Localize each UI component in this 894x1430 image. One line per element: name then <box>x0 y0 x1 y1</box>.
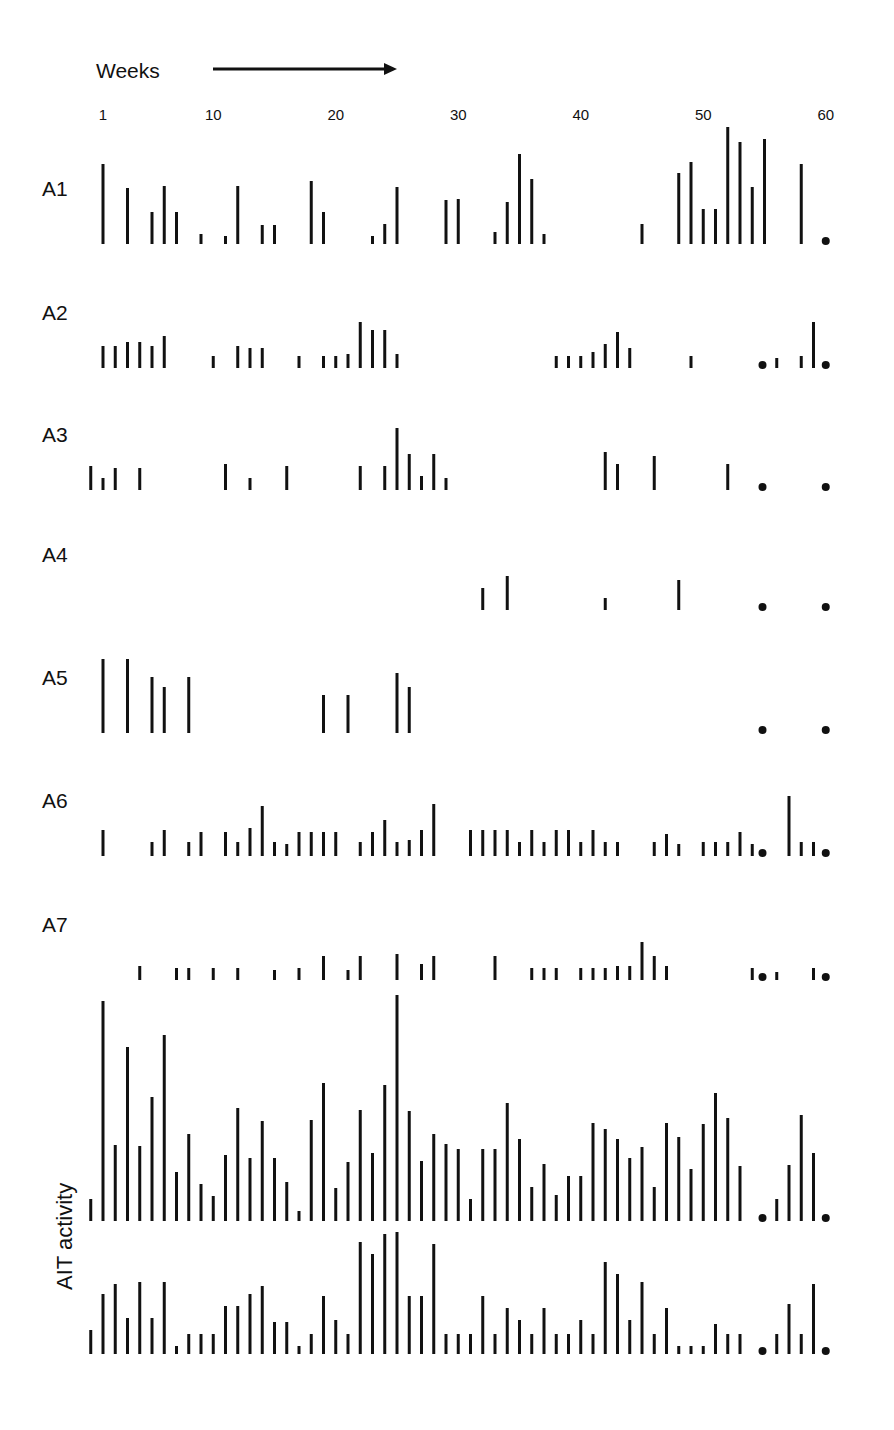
weeks-axis-label: Weeks <box>96 59 160 82</box>
end-marker-dot <box>822 1214 830 1222</box>
row-label: A4 <box>42 543 68 566</box>
x-tick-label: 1 <box>99 106 107 123</box>
raster-rows: A1A2A3A4A5A6A7 <box>42 127 830 1355</box>
end-marker-dot <box>759 483 767 491</box>
row-label: A5 <box>42 666 68 689</box>
x-tick-label: 30 <box>450 106 467 123</box>
end-marker-dot <box>822 726 830 734</box>
series-row-a7: A7 <box>42 913 830 981</box>
series-row-a1: A1 <box>42 127 830 245</box>
end-marker-dot <box>759 603 767 611</box>
end-marker-dot <box>759 361 767 369</box>
x-axis-ticks: 1102030405060 <box>99 106 834 123</box>
end-marker-dot <box>822 849 830 857</box>
x-tick-label: 60 <box>817 106 834 123</box>
series-row-a6: A6 <box>42 789 830 857</box>
x-tick-label: 40 <box>572 106 589 123</box>
end-marker-dot <box>759 973 767 981</box>
end-marker-dot <box>822 361 830 369</box>
series-row-a2: A2 <box>42 301 830 369</box>
row-label: A7 <box>42 913 68 936</box>
end-marker-dot <box>822 1347 830 1355</box>
end-marker-dot <box>759 849 767 857</box>
end-marker-dot <box>822 603 830 611</box>
row-label: A1 <box>42 177 68 200</box>
weeks-arrow-icon <box>213 63 397 75</box>
end-marker-dot <box>759 1347 767 1355</box>
end-marker-dot <box>759 1214 767 1222</box>
series-row-a4: A4 <box>42 543 830 611</box>
end-marker-dot <box>759 726 767 734</box>
row-label: A6 <box>42 789 68 812</box>
x-tick-label: 10 <box>205 106 222 123</box>
row-label: A2 <box>42 301 68 324</box>
end-marker-dot <box>822 483 830 491</box>
chart-canvas: Weeks 1102030405060 A1A2A3A4A5A6A7 AIT a… <box>0 0 894 1430</box>
row-label: A3 <box>42 423 68 446</box>
series-row-a5: A5 <box>42 659 830 734</box>
series-row-ait-8 <box>91 1232 830 1355</box>
x-tick-label: 50 <box>695 106 712 123</box>
end-marker-dot <box>822 973 830 981</box>
y-axis-label: AIT activity <box>52 1183 77 1290</box>
series-row-ait-7 <box>91 995 830 1222</box>
series-row-a3: A3 <box>42 423 830 491</box>
end-marker-dot <box>822 237 830 245</box>
x-tick-label: 20 <box>327 106 344 123</box>
